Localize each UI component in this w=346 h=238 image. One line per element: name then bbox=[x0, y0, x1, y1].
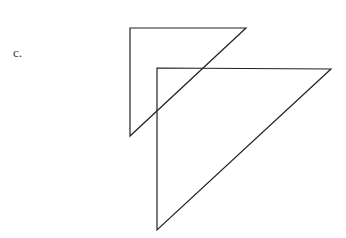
small-triangle bbox=[130, 28, 246, 136]
triangles-figure bbox=[0, 0, 346, 238]
large-triangle bbox=[157, 68, 331, 230]
